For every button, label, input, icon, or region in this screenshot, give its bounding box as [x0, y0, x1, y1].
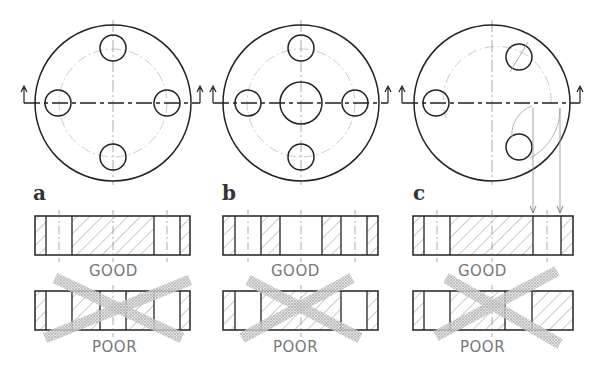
panel-label-a: a [33, 181, 46, 205]
panel-a-poor-section [35, 278, 190, 338]
caption-poor-a: POOR [92, 338, 137, 356]
panel-a-top-view [21, 20, 203, 185]
panel-a-good-section [35, 210, 190, 262]
rotation-arc-outer [530, 108, 560, 158]
flange-drawing [0, 0, 596, 373]
caption-good-a: GOOD [89, 262, 138, 280]
caption-poor-c: POOR [460, 338, 505, 356]
panel-c-top-view [399, 20, 583, 213]
panel-b-top-view [210, 20, 391, 185]
caption-poor-b: POOR [273, 338, 318, 356]
panel-label-c: c [413, 181, 425, 205]
panel-label-b: b [222, 181, 236, 205]
panel-b-good-section [223, 210, 378, 262]
caption-good-b: GOOD [271, 262, 320, 280]
panel-c-good-section [413, 210, 573, 262]
rotation-arc-inner [512, 106, 532, 137]
panel-b-poor-section [223, 278, 378, 338]
panel-c-poor-section [413, 271, 573, 344]
caption-good-c: GOOD [458, 262, 507, 280]
